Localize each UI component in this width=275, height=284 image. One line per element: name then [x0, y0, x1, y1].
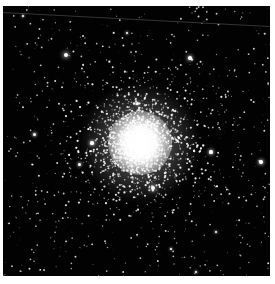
bright-star [259, 160, 263, 164]
cluster-photograph: globular star cluster [3, 6, 270, 276]
bright-star [90, 141, 93, 144]
star-field [3, 6, 270, 276]
bright-star [136, 102, 139, 105]
bright-star [78, 163, 81, 166]
bright-star [209, 150, 212, 153]
bright-star [151, 186, 155, 190]
bright-star [188, 56, 192, 60]
bright-star [33, 133, 36, 136]
